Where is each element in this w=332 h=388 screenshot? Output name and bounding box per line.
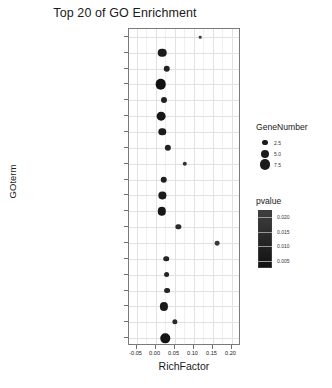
gene-number-legend-dot-cell	[256, 150, 274, 158]
x-axis-tick-label: 0.00	[149, 350, 160, 356]
gene-number-legend-items: 2.55.07.5	[256, 137, 332, 170]
gene-number-legend-value: 7.5	[274, 162, 281, 168]
gene-number-legend-value: 2.5	[274, 140, 281, 146]
x-axis-tick	[136, 345, 137, 349]
gene-number-legend-item: 2.5	[256, 137, 332, 148]
x-axis-tick	[193, 345, 194, 349]
y-axis-tick	[124, 179, 128, 180]
pvalue-colorbar-tick	[258, 246, 272, 247]
x-axis-tick-label: 0.05	[168, 350, 179, 356]
x-axis-tick	[212, 345, 213, 349]
gene-number-legend-dot-cell	[256, 140, 274, 145]
y-axis-tick	[124, 194, 128, 195]
y-axis-tick	[124, 274, 128, 275]
gene-number-legend-dot-cell	[256, 159, 274, 170]
y-axis-tick	[124, 36, 128, 37]
y-axis-tick	[124, 68, 128, 69]
pvalue-colorbar-label: 0.010	[277, 243, 290, 249]
pvalue-legend-title: pvalue	[256, 196, 332, 206]
x-axis-tick-label: 0.10	[187, 350, 198, 356]
y-axis-tick	[124, 337, 128, 338]
gene-number-legend-dot	[261, 150, 269, 158]
x-axis-tick	[155, 345, 156, 349]
gene-number-legend-value: 5.0	[274, 151, 281, 157]
gene-number-legend-dot	[260, 159, 271, 170]
gene-number-legend-item: 7.5	[256, 159, 332, 170]
x-axis-tick-label: -0.05	[129, 350, 142, 356]
y-axis-tick	[124, 83, 128, 84]
pvalue-colorbar-label: 0.005	[277, 258, 290, 264]
pvalue-colorbar-label: 0.020	[277, 214, 290, 220]
y-axis-tick	[124, 242, 128, 243]
y-axis-tick	[124, 52, 128, 53]
pvalue-colorbar-tick	[258, 217, 272, 218]
gene-number-legend-item: 5.0	[256, 148, 332, 159]
y-axis-tick	[124, 147, 128, 148]
x-axis-tick-label: 0.15	[206, 350, 217, 356]
pvalue-colorbar-tick	[258, 261, 272, 262]
y-axis-tick	[124, 163, 128, 164]
y-axis-tick	[124, 115, 128, 116]
x-axis-title: RichFactor	[128, 360, 240, 372]
gene-number-legend: GeneNumber 2.55.07.5	[256, 122, 332, 170]
y-axis-tick	[124, 226, 128, 227]
y-axis-tick	[124, 99, 128, 100]
gene-number-legend-title: GeneNumber	[256, 122, 332, 132]
x-axis-tick-label: 0.20	[225, 350, 236, 356]
y-axis-tick	[124, 258, 128, 259]
y-axis-tick	[124, 305, 128, 306]
pvalue-colorbar-label: 0.015	[277, 229, 290, 235]
go-enrichment-chart: Top 20 of GO Enrichment death-inducing s…	[0, 0, 332, 388]
pvalue-colorbar	[258, 210, 272, 268]
pvalue-colorbar-wrap: 0.0200.0150.0100.005	[256, 210, 332, 268]
x-axis-tick	[231, 345, 232, 349]
y-axis-title: GOterm	[7, 152, 18, 212]
x-axis-tick	[174, 345, 175, 349]
y-axis-tick	[124, 131, 128, 132]
y-axis-tick	[124, 321, 128, 322]
pvalue-colorbar-tick	[258, 232, 272, 233]
y-axis-labels: death-inducing signaling complexlytic va…	[0, 0, 332, 388]
pvalue-legend: pvalue 0.0200.0150.0100.005	[256, 196, 332, 268]
y-axis-tick	[124, 210, 128, 211]
gene-number-legend-dot	[262, 140, 267, 145]
y-axis-tick	[124, 290, 128, 291]
